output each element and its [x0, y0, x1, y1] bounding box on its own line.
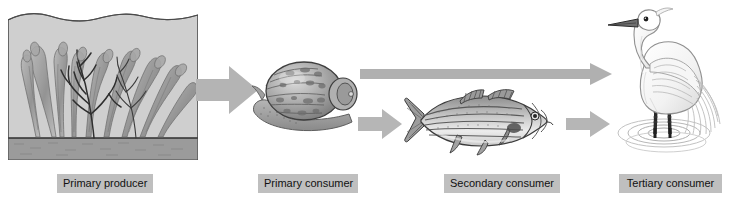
label-primary-consumer: Primary consumer — [258, 174, 358, 193]
secondary-consumer-illustration — [404, 88, 554, 156]
tertiary-consumer-illustration — [598, 2, 730, 164]
arrow-primary-consumer-to-secondary-consumer — [358, 108, 402, 140]
label-tertiary-consumer: Tertiary consumer — [619, 174, 722, 193]
water-ripples — [618, 119, 710, 152]
label-primary-producer: Primary producer — [57, 174, 153, 193]
primary-producer-illustration — [8, 10, 198, 160]
label-secondary-consumer: Secondary consumer — [444, 174, 560, 193]
arrow-producer-to-primary-consumer — [196, 66, 258, 114]
primary-consumer-illustration — [250, 56, 362, 138]
arrow-primary-consumer-to-tertiary-consumer — [360, 62, 612, 86]
food-chain-diagram: Primary producer Primary consumer Second… — [0, 0, 732, 206]
